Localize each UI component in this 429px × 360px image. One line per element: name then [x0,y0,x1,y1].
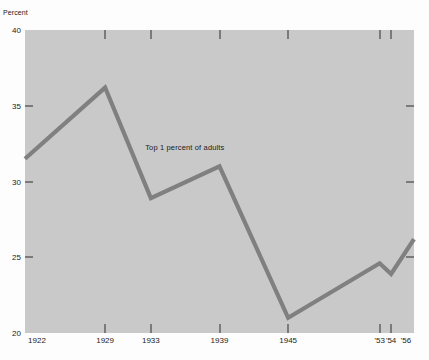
chart-figure: Percent 4035302520 Top 1 percent of adul… [0,0,429,360]
y-axis-tick-labels: 4035302520 [0,0,21,360]
x-axis-tick-mark [105,30,106,39]
x-axis-tick-mark [379,30,380,39]
plot-area: Top 1 percent of adults [25,30,414,333]
y-axis-tick-label: 25 [12,253,21,262]
x-axis-tick-label: '56 [401,336,411,345]
x-axis-tick-label: 1945 [279,336,297,345]
x-axis-tick-label: '53 [374,336,384,345]
x-axis-tick-mark [288,30,289,39]
x-axis-tick-label: 1933 [142,336,160,345]
y-axis-tick-label: 30 [12,177,21,186]
x-axis-tick-label: 1922 [28,336,46,345]
y-axis-tick-mark [406,105,414,106]
x-axis-tick-mark [150,324,151,333]
x-axis-tick-mark [219,30,220,39]
series-line-top-1-percent [25,30,414,333]
x-axis-tick-mark [288,324,289,333]
y-axis-tick-label: 35 [12,101,21,110]
x-axis-tick-labels: 19221929193319391945'53'54'56 [0,336,429,356]
y-axis-tick-mark [25,257,33,258]
x-axis-tick-label: 1929 [96,336,114,345]
x-axis-tick-mark [105,324,106,333]
y-axis-tick-label: 40 [12,26,21,35]
x-axis-tick-mark [391,324,392,333]
series-annotation-label: Top 1 percent of adults [145,143,224,152]
x-axis-tick-mark [379,324,380,333]
x-axis-tick-label: '54 [386,336,396,345]
x-axis-tick-mark [391,30,392,39]
y-axis-tick-mark [406,257,414,258]
x-axis-tick-label: 1939 [211,336,229,345]
x-axis-tick-mark [150,30,151,39]
y-axis-tick-mark [25,105,33,106]
y-axis-tick-mark [25,181,33,182]
y-axis-tick-mark [406,181,414,182]
x-axis-tick-mark [219,324,220,333]
